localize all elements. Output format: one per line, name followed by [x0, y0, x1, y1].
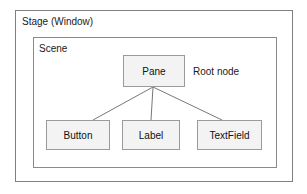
edge-pane-to-textfield [153, 87, 222, 120]
node-label: Label [122, 120, 180, 150]
edge-pane-to-button [93, 87, 153, 120]
node-pane: Pane [123, 55, 185, 87]
edge-pane-to-label [151, 87, 153, 120]
diagram-canvas: Stage (Window) Scene Root node Pane Butt… [0, 0, 307, 194]
edge-layer [0, 0, 307, 194]
node-textfield: TextField [197, 120, 262, 150]
node-button: Button [46, 120, 110, 150]
